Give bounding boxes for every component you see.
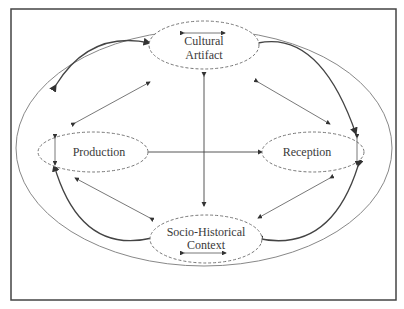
node-label-artifact-2: Artifact [185, 48, 223, 62]
inner-arrow-br [258, 178, 330, 218]
inner-arrow-bl [75, 178, 150, 218]
node-label-production: Production [73, 145, 126, 159]
diagram-canvas: R Cultural Artifact Production Reception… [0, 0, 404, 309]
node-production: Production [38, 132, 148, 172]
edge-artifact-reception [258, 42, 356, 134]
inner-arrow-tr [258, 82, 330, 124]
node-reception: Reception [262, 132, 364, 172]
node-socio-historical-context: Socio-Historical Context [150, 215, 262, 263]
node-cultural-artifact: Cultural Artifact [149, 21, 259, 69]
node-label-context-2: Context [187, 238, 226, 252]
inner-arrow-tl [75, 82, 150, 123]
edge-production-artifact [56, 41, 150, 85]
node-label-context-1: Socio-Historical [167, 225, 246, 239]
node-label-reception: Reception [283, 145, 332, 159]
edge-reception-context [256, 166, 358, 241]
node-label-artifact-1: Cultural [184, 34, 224, 48]
